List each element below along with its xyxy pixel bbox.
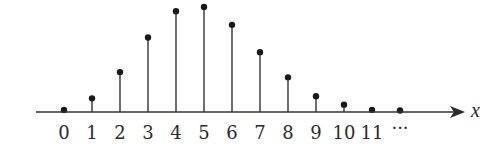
stem-marker	[285, 74, 291, 80]
stem-marker	[117, 69, 123, 75]
ellipsis-label: ···	[391, 117, 408, 138]
tick-label: 4	[170, 122, 181, 143]
stem-marker	[257, 49, 263, 55]
tick-label: 5	[198, 122, 209, 143]
tick-label: 1	[86, 122, 97, 143]
tick-label: 6	[226, 122, 237, 143]
tick-label: 10	[333, 122, 356, 143]
stem-marker	[173, 8, 179, 14]
tick-labels-group: 01234567891011···	[58, 117, 408, 143]
stems-group	[61, 4, 403, 114]
stem-marker	[313, 93, 319, 99]
tick-label: 3	[142, 122, 153, 143]
tick-label: 7	[254, 122, 265, 143]
tick-label: 11	[361, 122, 384, 143]
tick-label: 8	[282, 122, 293, 143]
tick-label: 2	[114, 122, 125, 143]
tick-label: 9	[310, 122, 321, 143]
stem-marker	[145, 34, 151, 40]
stem-marker	[89, 95, 95, 101]
stem-marker	[229, 22, 235, 28]
stem-plot: x 01234567891011···	[0, 0, 500, 152]
stem-marker	[201, 4, 207, 10]
stem-marker	[341, 101, 347, 107]
tick-label: 0	[58, 122, 69, 143]
x-axis-label: x	[470, 99, 480, 121]
